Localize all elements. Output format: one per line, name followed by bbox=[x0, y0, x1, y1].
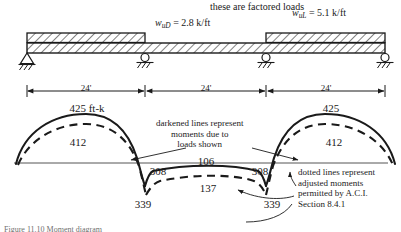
span-label-3: 24' bbox=[321, 84, 332, 94]
moment-label-span3-solid: 425 bbox=[323, 103, 340, 115]
annotation-dotted-line2: adjusted moments bbox=[298, 178, 375, 189]
span-label-2: 24' bbox=[201, 84, 212, 94]
annotation-darkened-line1: darkened lines represent bbox=[156, 118, 243, 129]
beam-member bbox=[27, 43, 385, 53]
live-load-symbol: w bbox=[292, 7, 299, 18]
live-load-subscript: uL bbox=[299, 11, 307, 20]
dead-load-label: wuD = 2.8 k/ft bbox=[155, 18, 210, 30]
span-label-1: 24' bbox=[81, 84, 92, 94]
moment-label-span1-solid: 425 ft-k bbox=[69, 103, 104, 115]
moment-label-support3-solid: 308 bbox=[252, 166, 269, 178]
live-load-value: = 5.1 k/ft bbox=[309, 7, 346, 18]
annotation-darkened-lines: darkened lines represent moments due to … bbox=[156, 118, 243, 150]
dead-load-subscript: uD bbox=[162, 21, 171, 30]
moment-label-support3-dashed: 339 bbox=[264, 199, 281, 211]
moment-label-support2-dashed: 339 bbox=[135, 199, 152, 211]
support-roller-2 bbox=[137, 54, 154, 69]
moment-label-span2-dashed: 137 bbox=[200, 183, 217, 195]
live-load-block-span1 bbox=[27, 33, 145, 43]
moment-label-span3-dashed: 412 bbox=[326, 137, 343, 149]
live-load-label: wuL = 5.1 k/ft bbox=[292, 8, 346, 20]
live-load-block-span3 bbox=[266, 33, 385, 43]
dead-load-value: = 2.8 k/ft bbox=[173, 17, 210, 28]
annotation-dotted-line1: dotted lines represent bbox=[298, 167, 375, 178]
moment-label-support2-solid: 308 bbox=[150, 166, 167, 178]
annotation-dotted-lines: dotted lines represent adjusted moments … bbox=[298, 167, 375, 209]
moment-diagram-figure: these are factored loads wuD = 2.8 k/ft … bbox=[0, 0, 401, 232]
figure-caption: Figure 11.10 Moment diagram bbox=[4, 226, 102, 232]
annotation-dotted-line4: Section 8.4.1 bbox=[298, 199, 375, 210]
support-roller-4 bbox=[377, 54, 394, 69]
support-pin-1 bbox=[19, 53, 36, 70]
dead-load-symbol: w bbox=[155, 17, 162, 28]
annotation-dotted-line3: permitted by A.C.I. bbox=[298, 188, 375, 199]
support-roller-3 bbox=[258, 54, 275, 69]
annotation-darkened-line2: moments due to bbox=[156, 129, 243, 140]
leader-dotted-upper bbox=[290, 172, 296, 186]
factored-loads-note: these are factored loads bbox=[210, 2, 304, 13]
moment-label-span2-solid: 106 bbox=[198, 156, 215, 168]
moment-label-span1-dashed: 412 bbox=[70, 137, 87, 149]
annotation-darkened-line3: loads shown bbox=[156, 139, 243, 150]
